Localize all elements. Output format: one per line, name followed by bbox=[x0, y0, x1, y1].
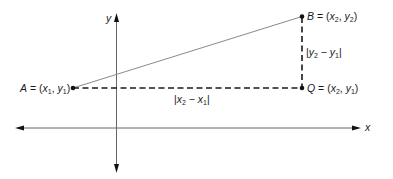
y-axis-down-arrow-icon bbox=[114, 164, 119, 173]
horizontal-distance-label: |x2 − x1| bbox=[174, 94, 210, 105]
hypotenuse-segment bbox=[73, 17, 302, 89]
distance-diagram: y x A = (x1, y1) B = (x2, y2) Q = (x2, y… bbox=[0, 0, 393, 179]
y-axis bbox=[114, 13, 119, 173]
x-axis-right-arrow-icon bbox=[352, 126, 361, 131]
point-b-dot bbox=[300, 14, 305, 19]
y-axis-up-arrow-icon bbox=[114, 13, 119, 22]
y-axis-label: y bbox=[106, 13, 111, 24]
x-axis-left-arrow-icon bbox=[15, 126, 24, 131]
point-a-dot bbox=[71, 86, 76, 91]
point-a-label: A = (x1, y1) bbox=[20, 83, 70, 94]
x-axis-label: x bbox=[365, 122, 370, 133]
x-axis bbox=[15, 126, 361, 131]
point-q-label: Q = (x2, y1) bbox=[307, 83, 358, 94]
point-b-label: B = (x2, y2) bbox=[307, 11, 357, 22]
point-q-dot bbox=[300, 86, 305, 91]
vertical-distance-label: |y2 − y1| bbox=[306, 47, 342, 58]
